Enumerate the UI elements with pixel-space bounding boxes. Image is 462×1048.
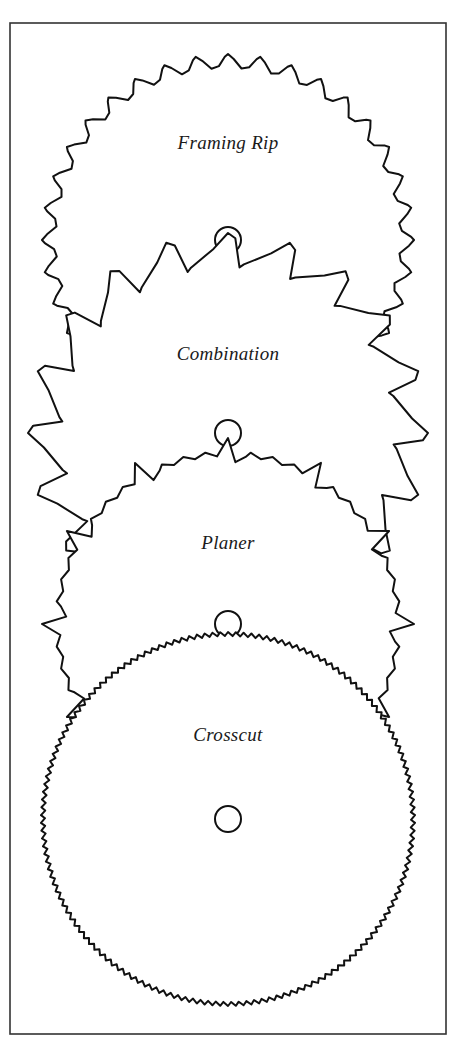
blade-label-planer: Planer bbox=[201, 532, 255, 554]
saw-blades-figure bbox=[0, 0, 462, 1048]
blade-label-combination: Combination bbox=[177, 343, 280, 365]
blade-label-crosscut: Crosscut bbox=[193, 724, 262, 746]
blade-label-framing-rip: Framing Rip bbox=[178, 132, 279, 154]
blade-crosscut bbox=[41, 632, 415, 1006]
blade-layer bbox=[28, 54, 428, 1006]
crosscut-arbor-hole bbox=[215, 806, 241, 832]
